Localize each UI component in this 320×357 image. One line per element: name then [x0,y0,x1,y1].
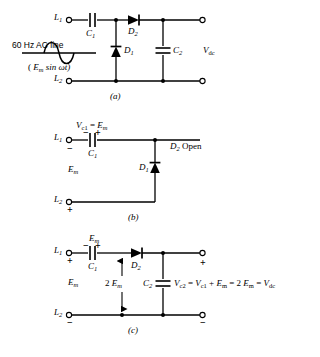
panel-a-l2-sub: 2 [59,77,62,84]
panel-c-terminal-out-top-circle [200,250,205,255]
panel-c-equation: Vc2 = Vc1 + Em = 2 Em = Vdc [174,279,275,288]
panel-b-Em-sub: m [74,168,79,175]
panel-c-diode2-label: D2 [131,261,141,270]
panel-b-d1-letter: D [139,162,146,172]
equation-token-3: + [207,278,217,288]
panel-c-cap1-right-sign: + [95,241,101,251]
panel-c-voltage-arrow-label: 2 Em [105,279,122,288]
equation-token-2-sub: c1 [201,282,207,289]
equation-token-1: = [186,278,196,288]
panel-b-l1-sub: 1 [59,136,62,143]
panel-c-c2-sub: 2 [149,282,152,289]
panel-a-diode1-label: D1 [124,46,134,55]
equation-token-6: E [243,278,249,288]
panel-a-c2-sub: 2 [179,49,182,56]
panel-a-source-label: 60 Hz AC line [12,41,64,50]
panel-c-l2-polarity-sign: − [67,318,73,328]
panel-c-terminal-l1-label: L1 [54,246,62,255]
panel-a-expr-E-sub: m [39,66,44,73]
panel-c-l2-sub: 2 [59,311,62,318]
panel-c-c1-sub: 1 [94,265,97,272]
panel-c-output-plus-sign: + [200,258,206,268]
panel-c-node-arrow-bottom [120,313,124,317]
panel-c-d2-letter: D [131,260,138,270]
panel-a-terminal-out-top-circle [200,17,205,22]
panel-b-terminal-l2-label: L2 [54,195,62,204]
panel-b-d2-sub: 2 [177,145,180,152]
panel-b-d1-sub: 1 [146,166,149,173]
panel-b-vc1-E-sub: m [103,124,108,131]
panel-c-arrow-num: 2 [105,278,112,288]
panel-c-source-amplitude-label: Em [68,278,78,287]
panel-a-vdc-sub: dc [209,49,215,56]
panel-a-expr-rest: sin ωt) [43,62,70,72]
panel-a-l1-sub: 1 [59,16,62,23]
panel-b-diode1-label: D1 [139,163,149,172]
panel-c-arrow-E-sub: m [117,282,122,289]
equation-token-6-sub: m [249,282,254,289]
equation-token-2: V [195,278,201,288]
panel-a-diode2-label: D2 [128,27,138,36]
panel-a-caption: (a) [110,91,121,101]
panel-c-Em-sub: m [74,281,79,288]
panel-c-cap1-label: C1 [88,262,97,271]
panel-c-cap2-label: C2 [143,279,152,288]
panel-b-d2-state-text: Open [180,141,202,151]
panel-a-diode1-triangle [111,47,121,58]
panel-a-vdc-letter: V [203,45,209,55]
panel-c-d2-sub: 2 [138,264,141,271]
panel-b-caption: (b) [128,212,139,222]
panel-a-terminal-l1-label: L1 [54,13,62,22]
panel-a-source-expression: ( Em sin ωt) [28,63,70,72]
panel-a-diode2-triangle [128,15,139,25]
panel-a-output-label: Vdc [203,46,215,55]
panel-b-cap-voltage-label: Vc1 = Em [76,121,107,130]
panel-c-diode2-triangle [131,248,142,258]
panel-b-c1-sub: 1 [94,152,97,159]
equation-token-8-sub: dc [269,282,275,289]
panel-a-terminal-l2-circle [66,78,71,83]
equation-token-0-sub: c2 [180,282,186,289]
panel-c-l1-polarity-sign: + [67,256,73,266]
equation-token-5: = 2 [227,278,243,288]
equation-token-0: V [174,278,180,288]
panel-a-terminal-l2-label: L2 [54,74,62,83]
panel-c-Em-top-letter: E [89,233,95,243]
panel-b-vc1-letter: V [76,120,82,130]
panel-c-cap1-left-sign: − [83,241,89,251]
figure-root: 60 Hz AC line ( Em sin ωt) L1 L2 C1 C2 D… [0,0,320,357]
panel-a-d2-sub: 2 [135,30,138,37]
panel-c-output-minus-sign: − [200,318,206,328]
panel-b-terminal-l1-label: L1 [54,133,62,142]
panel-a-d1-sub: 1 [131,49,134,56]
panel-a-cap1-label: C1 [86,29,95,38]
panel-b-terminal-l1-circle [66,137,71,142]
panel-c-terminal-l2-label: L2 [54,308,62,317]
panel-b-cap1-label: C1 [88,149,97,158]
panel-b-Em-letter: E [68,164,74,174]
panel-a-cap2-label: C2 [173,46,182,55]
panel-b-l2-sub: 2 [59,198,62,205]
panel-c-caption: (c) [128,325,138,335]
panel-b-cap1-left-sign: − [83,128,89,138]
panel-a-c1-sub: 1 [92,32,95,39]
panel-a-d1-letter: D [124,45,131,55]
panel-b-d2-letter: D [170,141,177,151]
panel-b-source-amplitude-label: Em [68,165,78,174]
panel-c-l1-sub: 1 [59,249,62,256]
panel-a-terminal-l1-circle [66,17,71,22]
panel-a-node-c2-bottom [161,79,165,83]
panel-b-diode2-state-label: D2 Open [170,142,202,151]
panel-b-cap1-right-sign: + [95,128,101,138]
equation-token-4-sub: m [222,282,227,289]
circuit-schematic-svg [0,0,320,357]
panel-a-node-d1-bottom [114,79,118,83]
panel-c-node-c2-bottom [161,313,165,317]
panel-a-d2-letter: D [128,26,135,36]
panel-b-l1-polarity-sign: − [67,144,73,154]
panel-a-expr-E: E [33,62,39,72]
panel-b-l2-polarity-sign: + [67,205,73,215]
panel-a-terminal-out-bottom-circle [200,78,205,83]
panel-c-Em-letter: E [68,277,74,287]
panel-b-diode1-triangle [150,163,160,173]
